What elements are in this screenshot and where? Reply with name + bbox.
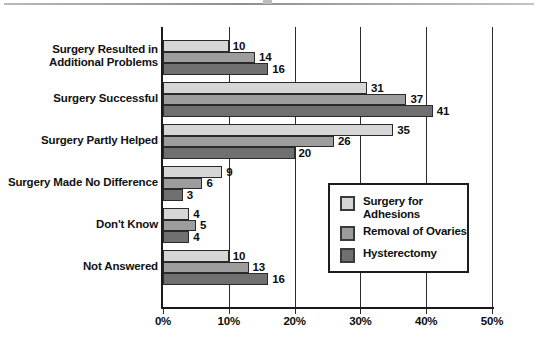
legend-swatch-2 — [340, 248, 355, 263]
plot-area: 101416313741352620963454101316 0%10%20%3… — [163, 27, 492, 309]
bar-c4-s2 — [163, 231, 189, 243]
bar-value-c0-s2: 16 — [272, 64, 284, 75]
bar-value-c2-s1: 26 — [338, 136, 350, 147]
legend-label-1: Removal of Ovaries — [363, 225, 467, 238]
bar-value-c1-s1: 37 — [410, 94, 422, 105]
bar-value-c5-s0: 10 — [233, 251, 245, 262]
bar-value-c2-s2: 20 — [299, 148, 311, 159]
x-tick-3 — [360, 309, 361, 314]
bar-value-c3-s1: 6 — [206, 178, 212, 189]
bar-value-c4-s0: 4 — [193, 209, 199, 220]
chart-legend: Surgery for AdhesionsRemoval of OvariesH… — [328, 183, 469, 273]
bar-value-c2-s0: 35 — [397, 125, 409, 136]
bar-value-c5-s2: 16 — [272, 274, 284, 285]
gridline-50 — [492, 27, 493, 307]
legend-label-0: Surgery for Adhesions — [363, 195, 423, 220]
legend-swatch-0 — [340, 196, 355, 211]
legend-item-0: Surgery for Adhesions — [340, 195, 423, 220]
chart-figure: Surgery Resulted in Additional ProblemsS… — [0, 0, 538, 346]
x-tick-4 — [426, 309, 427, 314]
legend-item-1: Removal of Ovaries — [340, 225, 467, 241]
bar-c4-s0 — [163, 208, 189, 220]
x-tick-5 — [492, 309, 493, 314]
bar-value-c5-s1: 13 — [253, 262, 265, 273]
x-tick-label-40: 40% — [415, 315, 437, 327]
bar-c2-s1 — [163, 136, 334, 148]
category-label-2: Surgery Partly Helped — [41, 134, 158, 147]
x-tick-0 — [163, 309, 164, 314]
category-label-4: Don't Know — [96, 218, 158, 231]
bar-value-c1-s0: 31 — [371, 83, 383, 94]
bar-c2-s2 — [163, 147, 295, 159]
category-label-5: Not Answered — [83, 260, 158, 273]
bar-c0-s2 — [163, 63, 268, 75]
bar-value-c3-s0: 9 — [226, 167, 232, 178]
x-axis-line — [161, 307, 494, 309]
x-tick-label-10: 10% — [218, 315, 240, 327]
x-tick-1 — [229, 309, 230, 314]
bar-value-c4-s2: 4 — [193, 232, 199, 243]
bar-c1-s1 — [163, 94, 406, 106]
legend-label-2: Hysterectomy — [363, 247, 437, 260]
bar-c2-s0 — [163, 124, 393, 136]
bar-c5-s0 — [163, 250, 229, 262]
bar-c0-s0 — [163, 40, 229, 52]
bar-value-c3-s2: 3 — [187, 190, 193, 201]
x-tick-label-20: 20% — [283, 315, 305, 327]
bar-value-c0-s1: 14 — [259, 52, 271, 63]
category-label-3: Surgery Made No Difference — [8, 176, 158, 189]
x-tick-label-0: 0% — [155, 315, 171, 327]
bar-c3-s1 — [163, 178, 202, 190]
page-top-mark — [263, 0, 272, 4]
bar-c1-s0 — [163, 82, 367, 94]
bar-c3-s2 — [163, 189, 183, 201]
legend-item-2: Hysterectomy — [340, 247, 437, 263]
x-tick-2 — [295, 309, 296, 314]
bar-c4-s1 — [163, 220, 196, 232]
bar-value-c0-s0: 10 — [233, 41, 245, 52]
x-tick-label-50: 50% — [481, 315, 503, 327]
bar-c1-s2 — [163, 105, 433, 117]
x-tick-label-30: 30% — [349, 315, 371, 327]
category-label-1: Surgery Successful — [53, 92, 158, 105]
bar-c0-s1 — [163, 52, 255, 64]
bar-value-c1-s2: 41 — [437, 106, 449, 117]
gridline-20 — [295, 27, 296, 307]
bar-c5-s1 — [163, 262, 249, 274]
category-label-0: Surgery Resulted in Additional Problems — [49, 43, 158, 69]
bar-value-c4-s1: 5 — [200, 220, 206, 231]
bar-c3-s0 — [163, 166, 222, 178]
bar-c5-s2 — [163, 273, 268, 285]
legend-swatch-1 — [340, 226, 355, 241]
